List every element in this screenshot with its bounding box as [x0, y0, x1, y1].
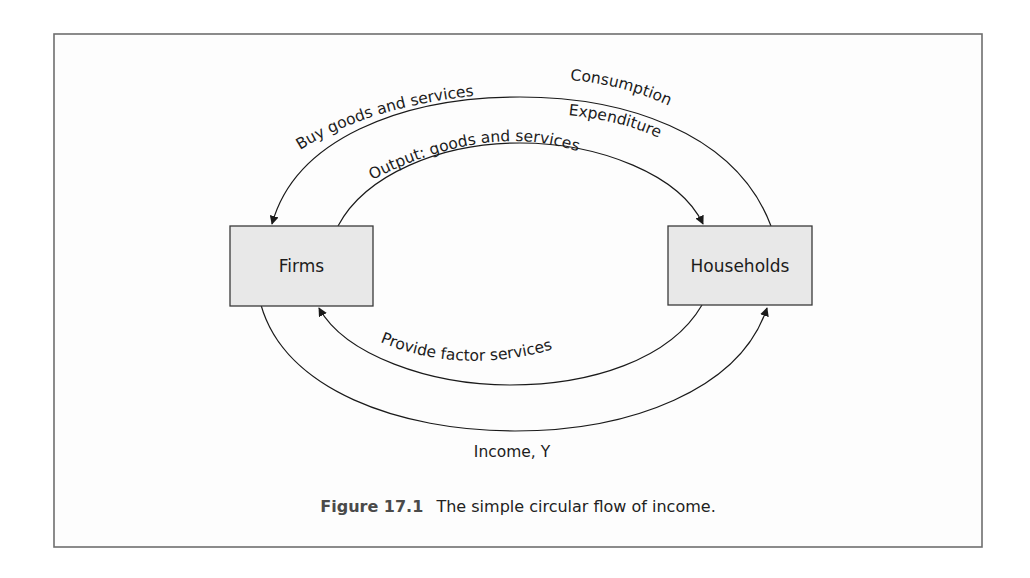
figure-title: The simple circular flow of income.: [435, 497, 715, 516]
households-label: Households: [691, 256, 790, 276]
circular-flow-diagram: Firms Households Buy goods and services …: [0, 0, 1030, 578]
firms-node: Firms: [230, 226, 373, 306]
figure-frame: [54, 34, 982, 547]
figure-caption: Figure 17.1 The simple circular flow of …: [320, 497, 715, 516]
figure-number: Figure 17.1: [320, 497, 423, 516]
firms-label: Firms: [279, 256, 325, 276]
households-node: Households: [668, 226, 812, 305]
income-label: Income, Y: [474, 443, 551, 461]
